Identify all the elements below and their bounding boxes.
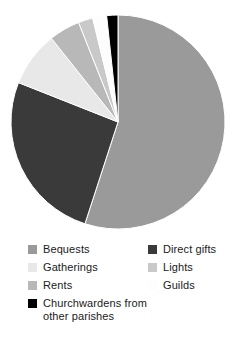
legend-swatch-icon (28, 263, 37, 272)
legend-swatch-icon (28, 281, 37, 290)
legend-swatch-icon (28, 299, 37, 308)
legend-swatch-icon (148, 263, 157, 272)
legend-entry[interactable]: Lights (148, 261, 238, 274)
legend-column-left: BequestsGatheringsRentsChurchwardens fro… (28, 243, 148, 328)
pie-plot-area (0, 0, 238, 240)
legend-entry[interactable]: Churchwardens from other parishes (28, 297, 148, 323)
legend-entry[interactable]: Bequests (28, 243, 148, 256)
legend-swatch-icon (148, 281, 157, 290)
legend-entry[interactable]: Direct gifts (148, 243, 238, 256)
legend-label: Gatherings (43, 261, 98, 274)
legend-label: Guilds (163, 279, 195, 292)
legend-label: Churchwardens from other parishes (43, 297, 147, 323)
legend-swatch-icon (28, 245, 37, 254)
pie-svg (0, 0, 238, 240)
legend-swatch-icon (148, 245, 157, 254)
chart-legend: BequestsGatheringsRentsChurchwardens fro… (0, 243, 238, 349)
legend-label: Lights (163, 261, 193, 274)
legend-column-right: Direct giftsLightsGuilds (148, 243, 238, 297)
pie-chart-figure: BequestsGatheringsRentsChurchwardens fro… (0, 0, 238, 349)
legend-entry[interactable]: Guilds (148, 279, 238, 292)
legend-entry[interactable]: Rents (28, 279, 148, 292)
legend-label: Rents (43, 279, 72, 292)
legend-label: Bequests (43, 243, 90, 256)
legend-entry[interactable]: Gatherings (28, 261, 148, 274)
legend-label: Direct gifts (163, 243, 216, 256)
